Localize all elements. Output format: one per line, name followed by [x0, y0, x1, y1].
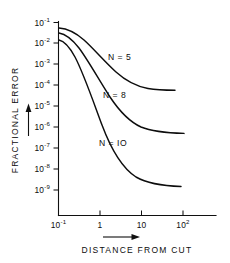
x-tick-exp-3: 2 — [186, 218, 190, 225]
y-tick-base-6: 10 — [34, 143, 44, 153]
y-tick-exp-8: -9 — [44, 183, 50, 190]
svg-text:1: 1 — [98, 220, 103, 230]
y-tick-exp-7: -8 — [44, 162, 50, 169]
x-tick-base-0: 10 — [51, 220, 61, 230]
x-axis-title: DISTANCE FROM CUT — [82, 245, 193, 255]
series-label-n-5: N = 5 — [108, 52, 131, 62]
x-tick-base-1: 1 — [98, 220, 103, 230]
y-tick-base-0: 10 — [34, 18, 44, 28]
svg-text:102: 102 — [176, 218, 190, 230]
svg-text:10-8: 10-8 — [34, 162, 50, 174]
y-tick-exp-0: -1 — [44, 16, 50, 23]
y-tick-base-8: 10 — [34, 185, 44, 195]
x-tick-base-3: 10 — [176, 220, 186, 230]
x-tick-exp-0: -1 — [60, 218, 66, 225]
y-axis-tick-labels: 10-1 10-2 10-3 10-4 10-5 10-6 10-7 10-8 — [34, 16, 50, 195]
y-tick-base-4: 10 — [34, 101, 44, 111]
svg-text:10-2: 10-2 — [34, 36, 50, 48]
y-tick-exp-4: -5 — [44, 99, 50, 106]
y-tick-base-3: 10 — [34, 80, 44, 90]
svg-text:10-1: 10-1 — [51, 218, 67, 230]
series-label-n-10: N = IO — [99, 138, 127, 148]
figure-container: 10-1 10-2 10-3 10-4 10-5 10-6 10-7 10-8 — [0, 0, 230, 263]
y-tick-exp-2: -3 — [44, 57, 50, 64]
svg-text:10-3: 10-3 — [34, 57, 50, 69]
y-tick-exp-6: -7 — [44, 141, 50, 148]
y-tick-base-5: 10 — [34, 122, 44, 132]
svg-text:10-1: 10-1 — [34, 16, 50, 28]
y-tick-base-7: 10 — [34, 164, 44, 174]
x-axis-direction-arrow — [103, 234, 140, 240]
svg-text:10-9: 10-9 — [34, 183, 50, 195]
svg-text:10: 10 — [137, 220, 147, 230]
svg-text:10-7: 10-7 — [34, 141, 50, 153]
log-log-line-chart: 10-1 10-2 10-3 10-4 10-5 10-6 10-7 10-8 — [0, 0, 230, 263]
svg-text:10-6: 10-6 — [34, 120, 50, 132]
y-axis-direction-arrow — [26, 104, 32, 137]
y-tick-exp-1: -2 — [44, 36, 50, 43]
x-axis-tick-labels: 10-1 1 10 102 — [51, 218, 190, 230]
y-tick-exp-3: -4 — [44, 78, 50, 85]
curve-n-8 — [59, 33, 184, 133]
y-tick-base-1: 10 — [34, 38, 44, 48]
series-label-n-8: N = 8 — [103, 90, 126, 100]
y-axis-title: FRACTIONAL ERROR — [10, 67, 20, 174]
x-axis-ticks — [59, 211, 184, 216]
x-tick-base-2: 10 — [137, 220, 147, 230]
y-tick-exp-5: -6 — [44, 120, 50, 127]
svg-text:10-5: 10-5 — [34, 99, 50, 111]
y-tick-base-2: 10 — [34, 59, 44, 69]
y-axis-ticks — [54, 23, 59, 191]
svg-text:10-4: 10-4 — [34, 78, 50, 90]
